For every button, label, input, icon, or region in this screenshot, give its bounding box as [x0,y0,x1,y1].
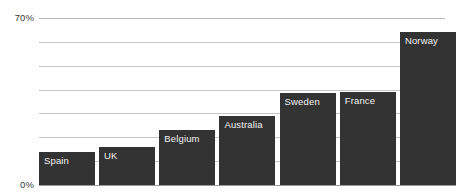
bar-chart: 70% 0% SpainUKBelgiumAustraliaSwedenFran… [0,0,458,196]
bar-label-belgium: Belgium [164,133,199,144]
y-axis-label-bottom: 0% [0,180,34,190]
bar-label-australia: Australia [224,119,262,130]
bar-label-norway: Norway [405,35,438,46]
bar-label-sweden: Sweden [285,96,320,107]
bar-spain[interactable]: Spain [39,152,95,185]
baseline-axis [39,185,456,186]
bar-belgium[interactable]: Belgium [159,130,215,185]
bar-norway[interactable]: Norway [400,32,456,185]
bar-uk[interactable]: UK [99,147,155,185]
bar-sweden[interactable]: Sweden [280,93,336,185]
bar-label-uk: UK [104,150,118,161]
bar-label-france: France [345,95,375,106]
bar-france[interactable]: France [340,92,396,185]
bar-australia[interactable]: Australia [219,116,275,185]
plot-area: SpainUKBelgiumAustraliaSwedenFranceNorwa… [39,0,456,196]
bar-label-spain: Spain [44,155,69,166]
y-axis-label-top: 70% [0,13,34,23]
